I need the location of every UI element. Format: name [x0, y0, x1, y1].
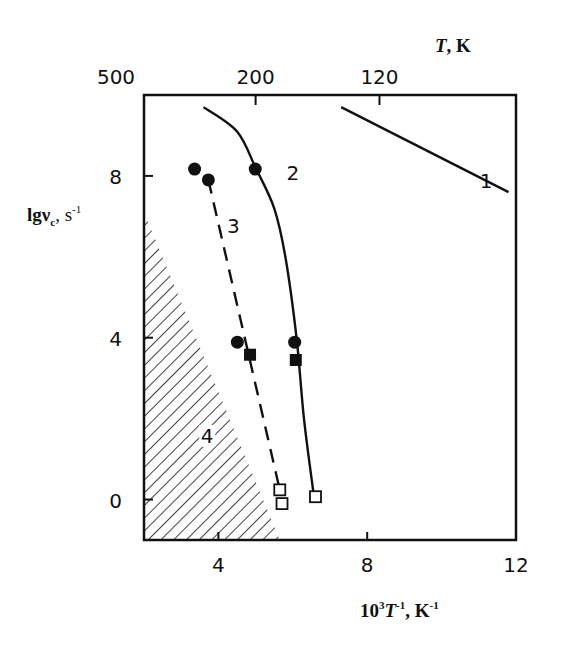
data-point-circle — [231, 336, 244, 349]
x-axis-title: 103T-1, K-1 — [360, 599, 439, 621]
y-tick-label: 8 — [109, 165, 122, 189]
data-point-circle — [288, 336, 301, 349]
x-tick-label: 8 — [361, 553, 374, 577]
top-tick-label: 120 — [360, 65, 398, 89]
data-point-circle — [249, 163, 262, 176]
curve-label-3: 3 — [227, 214, 240, 238]
top-tick-label: 200 — [237, 65, 275, 89]
hatched-regions — [144, 212, 280, 540]
data-point-circle — [202, 173, 215, 186]
data-point-filled-square — [244, 349, 256, 361]
top-axis-title: T, K — [435, 35, 471, 56]
chart: 4812048500200120 1234 103T-1, K-1 lgνc, … — [0, 0, 561, 647]
data-point-open-square — [277, 498, 288, 509]
y-tick-label: 4 — [109, 327, 122, 351]
y-axis-title: lgνc, s-1 — [27, 203, 81, 228]
y-tick-label: 0 — [109, 489, 122, 513]
hatched-region-4 — [144, 212, 280, 540]
curve-label-4: 4 — [201, 424, 214, 448]
data-point-circle — [188, 163, 201, 176]
curve-label-2: 2 — [286, 161, 299, 185]
data-point-open-square — [310, 491, 321, 502]
top-tick-label: 500 — [97, 65, 135, 89]
curve-label-1: 1 — [480, 169, 493, 193]
x-tick-label: 4 — [212, 553, 225, 577]
data-point-open-square — [274, 484, 285, 495]
x-tick-label: 12 — [503, 553, 528, 577]
data-point-filled-square — [290, 354, 302, 366]
curve-labels: 1234 — [199, 161, 492, 448]
